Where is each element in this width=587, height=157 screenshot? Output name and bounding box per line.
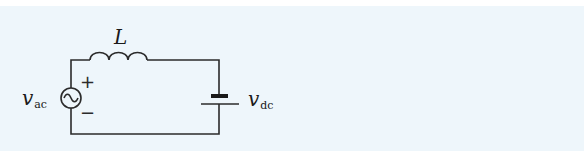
ac-subscript: ac <box>34 98 47 111</box>
dc-subscript: dc <box>260 99 273 112</box>
circuit-diagram: L + − vac vdc <box>0 0 587 157</box>
ac-symbol: v <box>22 86 34 110</box>
ac-minus-sign: − <box>80 102 95 123</box>
dc-symbol: v <box>248 87 260 111</box>
ac-source-label: vac <box>22 86 47 111</box>
ac-source-icon <box>61 88 81 108</box>
battery-icon <box>201 94 239 104</box>
inductor-coil-icon <box>90 53 147 61</box>
wire-top-right <box>147 60 219 96</box>
inductor-label: L <box>113 25 127 49</box>
ac-plus-sign: + <box>80 71 95 92</box>
dc-source-label: vdc <box>248 87 274 112</box>
